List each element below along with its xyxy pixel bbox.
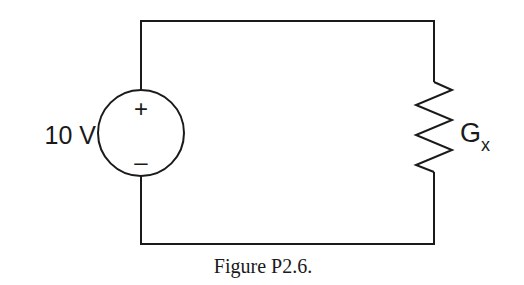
resistor: Gx bbox=[416, 82, 490, 172]
source-label: 10 V bbox=[45, 121, 97, 149]
resistor-label-main: G bbox=[460, 118, 481, 148]
figure-caption: Figure P2.6. bbox=[214, 255, 312, 278]
voltage-source: + – 10 V bbox=[45, 90, 184, 176]
circuit-diagram: + – 10 V Gx Figure P2.6. bbox=[0, 0, 524, 285]
bottom-wire bbox=[141, 172, 434, 244]
source-minus-sign: – bbox=[134, 148, 148, 175]
top-wire bbox=[141, 21, 434, 90]
resistor-zigzag-icon bbox=[416, 82, 452, 172]
resistor-label-subscript: x bbox=[481, 135, 490, 155]
resistor-label: Gx bbox=[460, 118, 490, 155]
source-plus-sign: + bbox=[134, 95, 148, 122]
